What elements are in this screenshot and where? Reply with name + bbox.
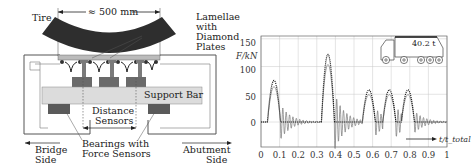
y-tick-150: 150	[236, 38, 256, 48]
force-chart: 150 F/kN 100 50 0 00.10.20.30.40.50.60.7…	[234, 0, 468, 164]
x-tick-0.4: 0.4	[325, 150, 345, 160]
abutment-side-label-2: Side	[206, 155, 227, 165]
x-tick-0.2: 0.2	[288, 150, 308, 160]
x-axis-label: t/t_total	[439, 135, 471, 144]
x-tick-0.8: 0.8	[400, 150, 420, 160]
x-tick-0.5: 0.5	[344, 150, 364, 160]
x-tick-0: 0	[251, 150, 271, 160]
tire-shape	[42, 17, 176, 53]
distance-sensors-label-2: Sensors	[95, 116, 133, 126]
y-axis-label: F/kN	[236, 51, 256, 61]
x-tick-1: 1	[437, 150, 457, 160]
expansion-joint-diagram: Tire ≈ 500 mm Lamellae with Diamond Plat…	[0, 0, 240, 164]
bridge-side-arrow	[25, 141, 30, 145]
tire-label: Tire	[32, 13, 52, 23]
x-tick-0.3: 0.3	[307, 150, 327, 160]
bearing-right	[148, 104, 170, 114]
width-label: ≈ 500 mm	[88, 7, 138, 17]
chart-plot	[234, 0, 468, 164]
bridge-side-label-2: Side	[35, 155, 56, 165]
y-tick-0: 0	[236, 118, 256, 128]
x-tick-0.9: 0.9	[418, 150, 438, 160]
x-tick-0.7: 0.7	[381, 150, 401, 160]
y-tick-50: 50	[236, 92, 256, 102]
y-tick-100: 100	[236, 65, 256, 75]
bearing-left	[48, 104, 70, 114]
bearings-label-2: Force Sensors	[82, 149, 151, 159]
truck-load-label: 40.2 t	[412, 39, 436, 48]
x-tick-0.1: 0.1	[270, 150, 290, 160]
x-tick-0.6: 0.6	[363, 150, 383, 160]
support-bar-label: Support Bar	[144, 90, 203, 100]
lamellae-label-4: Plates	[196, 42, 225, 52]
